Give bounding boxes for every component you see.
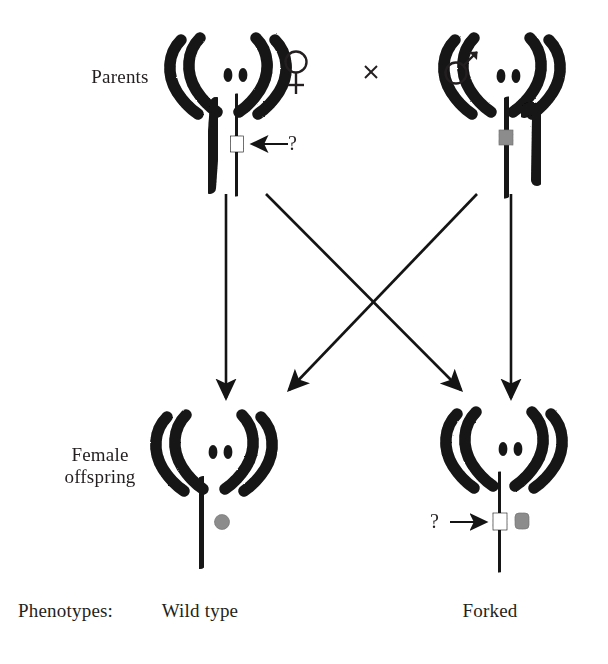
female-parent-karyotype (170, 38, 286, 190)
cross-symbol (365, 66, 377, 78)
male-parent-x-chromosome (499, 103, 513, 192)
male-parent-centromere-dots (497, 69, 521, 83)
forked-x-chromosome-left (493, 478, 507, 566)
female-offspring-label: Female offspring (0, 444, 200, 488)
wild-type-phenotype-label: Wild type (0, 600, 400, 622)
diagram-canvas (0, 0, 608, 664)
forked-phenotype-label: Forked (400, 600, 580, 622)
forked-gray-band (515, 513, 529, 529)
forked-offspring-karyotype (446, 412, 562, 566)
arrow-male-to-wildtype (289, 194, 477, 390)
male-parent-karyotype (444, 38, 560, 192)
wild-type-x-chromosome-left (200, 482, 203, 563)
genetics-cross-diagram: Parents Female offspring Phenotypes: Wil… (0, 0, 608, 664)
inheritance-arrows (226, 194, 511, 398)
male-parent-gray-band (499, 130, 513, 145)
wild-type-offspring-karyotype (156, 415, 272, 566)
forked-centromere-dots (499, 442, 523, 456)
arrow-female-to-forked (266, 194, 461, 390)
female-parent-white-band (231, 136, 244, 152)
parent-question-mark: ? (288, 132, 297, 155)
female-parent-x-chromosome-left (210, 103, 216, 188)
wild-type-centromere-dots (209, 445, 233, 459)
forked-x-chromosome-right (515, 478, 529, 566)
wild-type-x-chromosome-right (215, 478, 230, 566)
offspring-question-mark: ? (430, 510, 439, 533)
female-parent-x-chromosome-right (231, 100, 244, 190)
parents-label: Parents (0, 66, 240, 88)
wild-type-gray-band (215, 515, 230, 530)
forked-white-band (493, 513, 507, 530)
